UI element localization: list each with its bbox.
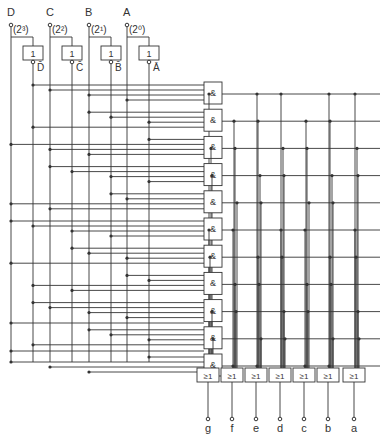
- inv-label-C: C̄: [76, 61, 83, 73]
- not-gate-symbol: 1: [69, 49, 74, 59]
- junction-dot: [70, 229, 73, 232]
- junction-dot: [125, 316, 128, 319]
- junction-dot: [109, 116, 112, 119]
- junction-dot: [31, 224, 34, 227]
- junction-dot: [147, 355, 150, 358]
- junction-dot: [125, 257, 128, 260]
- not-gate-symbol: 1: [108, 49, 113, 59]
- junction-dot: [31, 83, 34, 86]
- junction-dot: [48, 365, 51, 368]
- logic-diagram: D(2³)1D̄C(2²)1C̄B(2¹)1B̄A(2⁰)1Ā&&&&&&&&&…: [0, 0, 384, 435]
- weight-label-C: (2²): [52, 24, 68, 35]
- junction-dot: [87, 111, 90, 114]
- inv-label-A: Ā: [153, 62, 160, 73]
- and-gate-symbol: &: [210, 115, 216, 125]
- junction-dot: [9, 219, 12, 222]
- output-terminal: [230, 417, 234, 421]
- junction-dot: [48, 306, 51, 309]
- output-label-d: d: [277, 422, 283, 434]
- junction-dot: [70, 247, 73, 250]
- and-gate-symbol: &: [210, 278, 216, 288]
- junction-dot: [147, 121, 150, 124]
- junction-dot: [87, 93, 90, 96]
- junction-dot: [87, 328, 90, 331]
- junction-dot: [125, 197, 128, 200]
- junction-dot: [87, 370, 90, 373]
- output-label-f: f: [230, 422, 234, 434]
- junction-dot: [31, 284, 34, 287]
- junction-dot: [9, 202, 12, 205]
- junction-dot: [48, 88, 51, 91]
- or-gate-symbol: ≥1: [350, 372, 359, 381]
- inversion-bubble: [70, 60, 74, 64]
- junction-dot: [48, 148, 51, 151]
- or-gate-symbol: ≥1: [228, 372, 237, 381]
- or-gate-symbol: ≥1: [276, 372, 285, 381]
- inversion-bubble: [147, 60, 151, 64]
- input-label-D: D: [7, 6, 15, 18]
- junction-dot: [109, 175, 112, 178]
- and-gate-symbol: &: [210, 224, 216, 234]
- output-terminal: [254, 417, 258, 421]
- junction-dot: [109, 333, 112, 336]
- junction-dot: [147, 338, 150, 341]
- output-label-b: b: [325, 422, 331, 434]
- junction-dot: [109, 192, 112, 195]
- junction-dot: [9, 360, 12, 363]
- junction-dot: [109, 234, 112, 237]
- output-terminal: [278, 417, 282, 421]
- not-gate-symbol: 1: [146, 49, 151, 59]
- junction-dot: [147, 138, 150, 141]
- inversion-bubble: [31, 60, 35, 64]
- input-label-A: A: [123, 6, 131, 18]
- junction-dot: [9, 262, 12, 265]
- junction-dot: [125, 274, 128, 277]
- junction-dot: [9, 143, 12, 146]
- output-terminal: [326, 417, 330, 421]
- junction-dot: [147, 180, 150, 183]
- circuit-svg: D(2³)1D̄C(2²)1C̄B(2¹)1B̄A(2⁰)1Ā&&&&&&&&&…: [0, 0, 384, 435]
- weight-label-B: (2¹): [91, 24, 107, 35]
- output-label-g: g: [205, 422, 211, 434]
- and-gate-symbol: &: [210, 88, 216, 98]
- output-label-a: a: [351, 422, 358, 434]
- or-gate-symbol: ≥1: [300, 372, 309, 381]
- input-label-B: B: [85, 6, 92, 18]
- or-gate-symbol: ≥1: [252, 372, 261, 381]
- junction-dot: [70, 170, 73, 173]
- output-terminal: [302, 417, 306, 421]
- and-gate-symbol: &: [210, 197, 216, 207]
- or-gate-symbol: ≥1: [324, 372, 333, 381]
- inversion-bubble: [109, 60, 113, 64]
- inv-label-B: B̄: [115, 61, 122, 73]
- weight-label-A: (2⁰): [129, 24, 145, 35]
- junction-dot: [31, 301, 34, 304]
- junction-dot: [147, 279, 150, 282]
- output-terminal: [352, 417, 356, 421]
- junction-dot: [87, 153, 90, 156]
- junction-dot: [70, 289, 73, 292]
- junction-dot: [48, 207, 51, 210]
- junction-dot: [31, 126, 34, 129]
- output-label-c: c: [301, 422, 307, 434]
- junction-dot: [87, 311, 90, 314]
- not-gate-symbol: 1: [30, 49, 35, 59]
- output-terminal: [206, 417, 210, 421]
- output-label-e: e: [253, 422, 259, 434]
- junction-dot: [87, 252, 90, 255]
- inv-label-D: D̄: [37, 61, 44, 73]
- input-label-C: C: [46, 6, 54, 18]
- junction-dot: [48, 165, 51, 168]
- weight-label-D: (2³): [13, 24, 29, 35]
- or-gate-symbol: ≥1: [204, 372, 213, 381]
- junction-dot: [125, 98, 128, 101]
- junction-dot: [31, 343, 34, 346]
